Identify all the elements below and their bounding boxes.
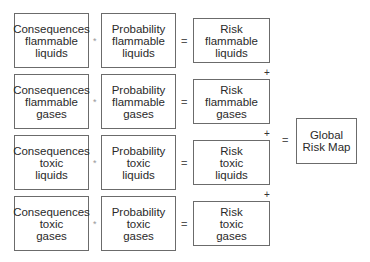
box-line: Risk	[220, 206, 242, 218]
box-line: toxic	[220, 157, 244, 169]
multiply-operator: *	[93, 219, 97, 229]
box-line: gases	[123, 230, 154, 242]
box-line: Consequences	[13, 206, 90, 218]
risk-flammable-liquids-box: Risk flammable liquids	[193, 18, 270, 63]
box-line: flammable	[112, 35, 165, 47]
box-line: toxic	[40, 157, 64, 169]
box-line: toxic	[220, 218, 244, 230]
risk-toxic-liquids-box: Risk toxic liquids	[193, 140, 270, 185]
box-line: Probability	[112, 145, 166, 157]
global-risk-map-box: Global Risk Map	[296, 118, 357, 164]
box-line: Consequences	[13, 23, 90, 35]
consequences-toxic-gases-box: Consequences toxic gases	[14, 196, 89, 251]
box-line: Probability	[112, 84, 166, 96]
box-line: toxic	[127, 157, 151, 169]
multiply-operator: *	[93, 36, 97, 46]
equals-operator-global: =	[282, 135, 288, 145]
equals-operator: =	[181, 97, 187, 107]
box-line: Consequences	[13, 145, 90, 157]
plus-operator: +	[264, 68, 270, 78]
box-line: gases	[216, 108, 247, 120]
equals-operator: =	[181, 158, 187, 168]
box-line: liquids	[215, 47, 248, 59]
probability-toxic-liquids-box: Probability toxic liquids	[101, 135, 176, 190]
box-line: liquids	[35, 169, 68, 181]
multiply-operator: *	[93, 97, 97, 107]
risk-toxic-gases-box: Risk toxic gases	[193, 201, 270, 246]
probability-toxic-gases-box: Probability toxic gases	[101, 196, 176, 251]
equals-operator: =	[181, 36, 187, 46]
box-line: Probability	[112, 206, 166, 218]
box-line: flammable	[205, 96, 258, 108]
box-line: Risk	[220, 23, 242, 35]
probability-flammable-liquids-box: Probability flammable liquids	[101, 13, 176, 68]
equals-operator: =	[181, 219, 187, 229]
box-line: flammable	[25, 35, 78, 47]
box-line: Consequences	[13, 84, 90, 96]
multiply-operator: *	[93, 158, 97, 168]
box-line: Global	[310, 129, 343, 141]
box-line: toxic	[127, 218, 151, 230]
box-line: flammable	[205, 35, 258, 47]
box-line: flammable	[112, 96, 165, 108]
box-line: Risk	[220, 145, 242, 157]
box-line: Risk	[220, 84, 242, 96]
risk-flammable-gases-box: Risk flammable gases	[193, 79, 270, 124]
box-line: liquids	[35, 47, 68, 59]
box-line: gases	[36, 108, 67, 120]
box-line: Risk Map	[303, 141, 351, 153]
box-line: flammable	[25, 96, 78, 108]
box-line: toxic	[40, 218, 64, 230]
plus-operator: +	[264, 190, 270, 200]
box-line: liquids	[122, 169, 155, 181]
consequences-flammable-gases-box: Consequences flammable gases	[14, 74, 89, 129]
probability-flammable-gases-box: Probability flammable gases	[101, 74, 176, 129]
box-line: liquids	[122, 47, 155, 59]
box-line: gases	[216, 230, 247, 242]
consequences-flammable-liquids-box: Consequences flammable liquids	[14, 13, 89, 68]
box-line: liquids	[215, 169, 248, 181]
box-line: gases	[36, 230, 67, 242]
plus-operator: +	[264, 129, 270, 139]
box-line: gases	[123, 108, 154, 120]
box-line: Probability	[112, 23, 166, 35]
consequences-toxic-liquids-box: Consequences toxic liquids	[14, 135, 89, 190]
